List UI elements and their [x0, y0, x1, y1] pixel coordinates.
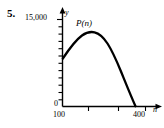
y-axis-ticks — [57, 20, 63, 100]
y-axis-label: y — [65, 9, 69, 17]
figure-container: 5. — [0, 0, 164, 128]
y-axis-zero-tick-label: 0 — [54, 100, 58, 108]
curve-label: P(n) — [76, 19, 92, 28]
x-axis-start-tick-label: 100 — [53, 111, 65, 119]
x-axis-label: n — [153, 106, 157, 114]
x-axis-end-tick-label: 400 — [133, 111, 145, 119]
y-axis-max-tick-label: 15,000 — [25, 14, 47, 22]
pn-curve — [63, 32, 136, 106]
